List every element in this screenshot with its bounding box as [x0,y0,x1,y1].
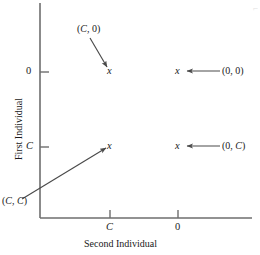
marker-c-0: x [107,66,112,77]
marker-0-c: x [175,141,180,152]
x-tick-label-0: 0 [175,222,180,233]
label-0-c: (0, C) [222,141,245,151]
label-c-0: (C, 0) [77,24,100,34]
y-tick-label-c: C [26,141,33,152]
marker-c-c: x [107,141,112,152]
x-tick-label-c: C [106,222,113,233]
figure-container: 0 C C 0 x x x x (C, 0) (0, 0) (0, C) (C,… [0,0,260,255]
arrow-c-0 [90,38,107,67]
corner-artifact-mark: ⌐ [252,4,258,20]
label-0-0: (0, 0) [222,66,244,76]
label-c-c: (C, C) [2,196,27,206]
y-tick-label-0: 0 [26,66,31,77]
arrow-c-c [22,148,106,199]
plot-svg [0,0,260,255]
marker-0-0: x [175,66,180,77]
y-axis-title: First Individual [14,98,24,160]
x-axis-title: Second Individual [84,239,157,249]
